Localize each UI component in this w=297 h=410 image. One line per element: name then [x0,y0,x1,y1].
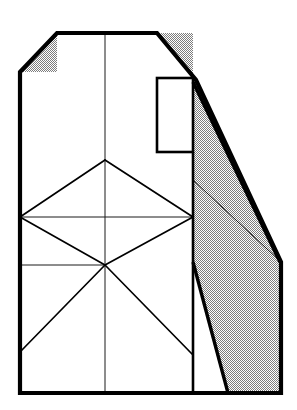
technical-drawing-canvas [0,0,297,410]
technical-drawing-svg [0,0,297,410]
inner-rectangle-notch-fill [157,78,193,152]
